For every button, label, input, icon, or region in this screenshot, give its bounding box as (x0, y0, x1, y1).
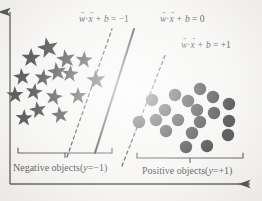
star-marker (62, 65, 79, 82)
dot-marker (223, 98, 235, 110)
negative-class-caption-head: Negative objects( (13, 162, 83, 173)
dot-marker (186, 127, 198, 139)
dot-marker (180, 141, 192, 153)
star-marker (6, 86, 23, 102)
equation-rhs-zero: 0 (200, 14, 205, 24)
dot-marker (208, 107, 220, 119)
positive-class-caption-tail: =+1) (213, 165, 233, 176)
equation-label-decision-boundary: w·x + b = 0 (160, 15, 205, 25)
star-marker (76, 51, 93, 68)
positive-class-caption: Positive objects(y=+1) (142, 166, 232, 176)
dot-marker (207, 91, 219, 103)
equation-label-margin-negative: w·x + b = −1 (79, 15, 129, 25)
dot-marker (169, 89, 181, 101)
star-marker (16, 109, 33, 125)
star-marker (56, 49, 75, 68)
svm-diagram-figure: w·x + b = −1 w·x + b = 0 w·x + b = +1 Ne… (0, 0, 262, 201)
equation-rhs-negative: −1 (119, 14, 129, 24)
dot-marker (194, 116, 206, 128)
positive-class-markers (133, 83, 235, 153)
dot-marker (160, 125, 172, 137)
decision-boundary-line (95, 29, 134, 153)
star-marker (13, 68, 30, 85)
dot-marker (159, 104, 171, 116)
dot-marker (172, 114, 184, 126)
dot-marker (191, 104, 203, 116)
dot-marker (133, 116, 145, 128)
equation-label-margin-positive: w·x + b = +1 (181, 41, 231, 51)
negative-class-markers (6, 37, 105, 125)
star-marker (22, 48, 41, 66)
star-marker (69, 87, 86, 103)
star-marker (51, 106, 68, 123)
negative-class-caption: Negative objects(y=−1) (13, 163, 107, 173)
positive-class-caption-head: Positive objects( (142, 165, 208, 176)
margin-line-negative (67, 29, 112, 157)
star-marker (37, 37, 57, 58)
dot-marker (201, 140, 213, 152)
star-marker (86, 70, 105, 88)
negative-class-caption-tail: =−1) (88, 162, 108, 173)
dot-marker (222, 129, 234, 141)
positive-class-brace (137, 153, 243, 158)
dot-marker (223, 115, 235, 127)
star-marker (35, 69, 52, 86)
negative-class-brace (18, 148, 112, 153)
dot-marker (146, 94, 158, 106)
dot-marker (182, 95, 194, 107)
star-marker (26, 83, 43, 100)
equation-rhs-positive: +1 (221, 40, 231, 50)
dot-marker (194, 83, 206, 95)
dot-marker (150, 114, 162, 126)
star-marker (46, 88, 63, 105)
